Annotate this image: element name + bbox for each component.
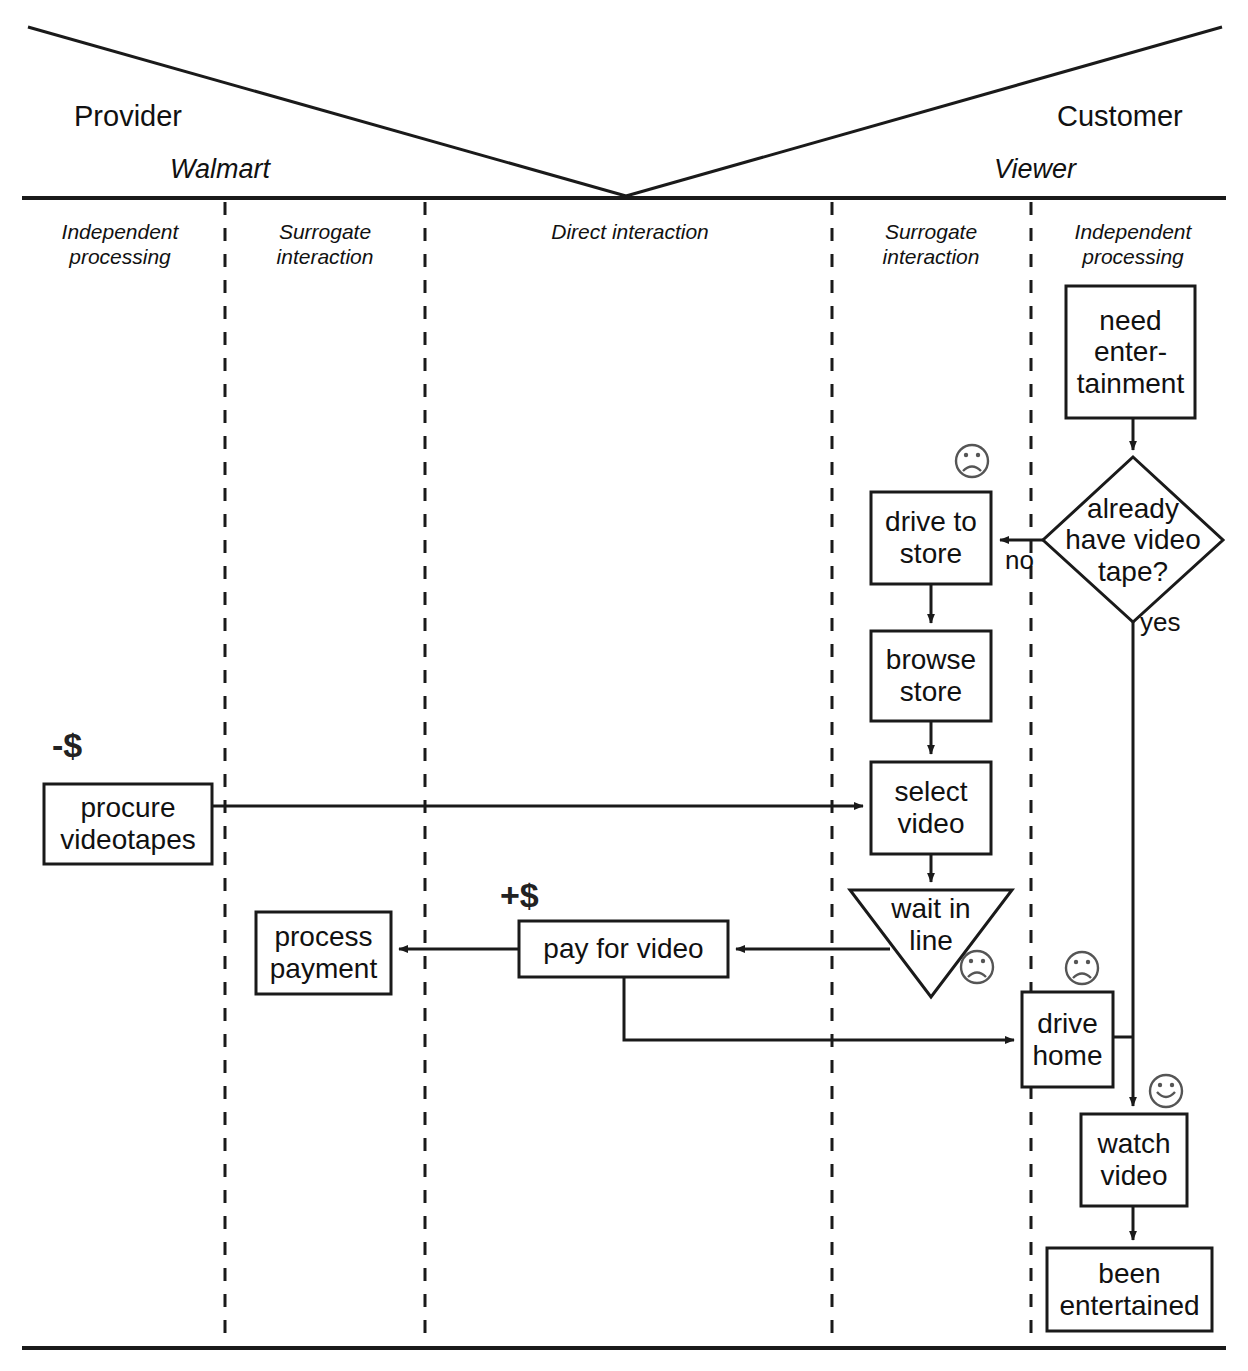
service-blueprint-diagram: Provider Customer Walmart Viewer Indepen… — [0, 0, 1248, 1371]
node-drive-home[interactable]: drive home — [1022, 992, 1113, 1087]
zone-label-provider-independent: Independent processing — [40, 219, 200, 269]
cost-annotation: -$ — [52, 726, 82, 765]
node-watch-video[interactable]: watch video — [1081, 1114, 1187, 1206]
provider-role-label: Provider — [74, 100, 182, 132]
node-been-entertained[interactable]: been entertained — [1047, 1248, 1212, 1331]
node-need-entertainment[interactable]: need enter- tainment — [1066, 286, 1195, 418]
frowning-face-icon-drive-to-store — [956, 445, 988, 477]
frowning-face-icon-drive-home — [1066, 952, 1098, 984]
edge-pay-to-drive-home — [624, 977, 1014, 1040]
node-drive-to-store[interactable]: drive to store — [871, 492, 991, 584]
node-outlines — [44, 286, 1223, 1331]
zone-label-customer-independent: Independent processing — [1053, 219, 1213, 269]
edge-label-yes: yes — [1140, 607, 1180, 638]
flow-connectors — [212, 418, 1133, 1240]
node-have-video-tape-decision[interactable]: already have video tape? — [1051, 474, 1215, 606]
node-process-payment[interactable]: process payment — [256, 912, 391, 994]
zone-label-provider-surrogate: Surrogate interaction — [250, 219, 400, 269]
zone-label-direct-interaction: Direct interaction — [535, 219, 725, 244]
node-wait-in-line[interactable]: wait in line — [861, 893, 1001, 965]
provider-actor-label: Walmart — [170, 154, 270, 184]
edge-label-no: no — [1005, 545, 1034, 576]
node-procure-videotapes[interactable]: procure videotapes — [44, 784, 212, 864]
node-pay-for-video[interactable]: pay for video — [519, 921, 728, 977]
node-select-video[interactable]: select video — [871, 762, 991, 854]
node-browse-store[interactable]: browse store — [871, 631, 991, 721]
diagram-canvas — [0, 0, 1248, 1371]
revenue-annotation: +$ — [500, 876, 539, 915]
customer-role-label: Customer — [1057, 100, 1183, 132]
zone-label-customer-surrogate: Surrogate interaction — [855, 219, 1007, 269]
smiling-face-icon-watch-video — [1150, 1075, 1182, 1107]
customer-actor-label: Viewer — [994, 154, 1076, 184]
